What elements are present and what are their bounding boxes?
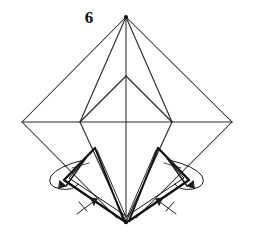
origami-diagram: 6 — [0, 0, 253, 239]
bottom-vertex-dot — [124, 220, 128, 224]
origami-figure-svg — [0, 0, 253, 239]
apex-vertex-dot — [124, 15, 128, 19]
step-number-label: 6 — [79, 7, 99, 29]
